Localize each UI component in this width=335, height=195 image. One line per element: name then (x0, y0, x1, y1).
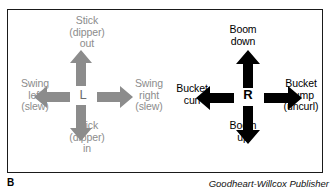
arrow-down-icon (70, 105, 92, 141)
left-joystick-cluster: Stick (dipper) out Stick (dipper) in Swi… (8, 10, 176, 172)
right-joystick-center-letter: R (240, 88, 256, 101)
joystick-control-diagram: Stick (dipper) out Stick (dipper) in Swi… (0, 0, 335, 195)
left-joystick-up-label: Stick (dipper) out (42, 15, 132, 50)
arrow-left-icon (196, 86, 234, 110)
arrow-down-icon (236, 106, 260, 144)
figure-part-label: B (7, 177, 14, 188)
diagram-frame: Stick (dipper) out Stick (dipper) in Swi… (7, 9, 323, 173)
arrow-up-icon (70, 50, 92, 86)
left-up-line1: Stick (42, 15, 132, 27)
left-up-line3: out (42, 38, 132, 50)
left-down-line3: in (42, 143, 132, 155)
right-joystick-cluster: Boom down Boom up Bucket curl Bucket dum… (176, 10, 324, 172)
right-joystick-up-label: Boom down (201, 24, 285, 47)
arrow-right-icon (97, 86, 133, 108)
right-up-line1: Boom (201, 24, 285, 36)
publisher-credit: Goodheart-Willcox Publisher (209, 178, 329, 189)
arrow-up-icon (236, 50, 260, 88)
arrow-right-icon (264, 86, 302, 110)
right-up-line2: down (201, 36, 285, 48)
arrow-left-icon (34, 86, 70, 108)
left-joystick-center-letter: L (75, 88, 91, 101)
